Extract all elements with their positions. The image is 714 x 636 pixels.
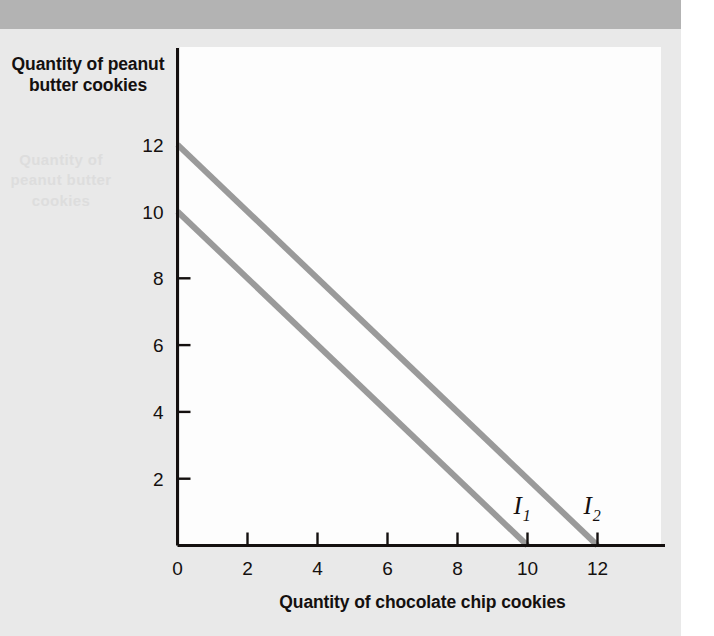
figure-page: Quantity of peanut butter cookies Quanti…	[0, 0, 714, 636]
y-tick-label: 2	[153, 469, 164, 490]
x-tick-label: 8	[452, 558, 463, 579]
x-tick-label: 0	[172, 558, 183, 579]
y-tick-label: 4	[153, 402, 164, 423]
x-tick-label: 2	[242, 558, 253, 579]
y-tick-label: 10	[142, 202, 163, 223]
y-tick-label: 6	[153, 335, 164, 356]
x-tick-label: 4	[312, 558, 323, 579]
chart-canvas: 02468101224681012 I1I2	[0, 0, 714, 636]
tick-labels-group: 02468101224681012	[142, 135, 608, 579]
curves-group	[178, 145, 598, 546]
curve-label-i2: I2	[583, 492, 601, 524]
y-tick-label: 12	[142, 135, 163, 156]
x-tick-label: 6	[382, 558, 393, 579]
x-tick-label: 10	[517, 558, 538, 579]
x-tick-label: 12	[587, 558, 608, 579]
indifference-curve-i2	[178, 145, 598, 546]
indifference-curve-i1	[178, 212, 528, 546]
axes-group	[178, 48, 666, 546]
y-tick-label: 8	[153, 268, 164, 289]
curve-label-i1: I1	[513, 492, 531, 524]
